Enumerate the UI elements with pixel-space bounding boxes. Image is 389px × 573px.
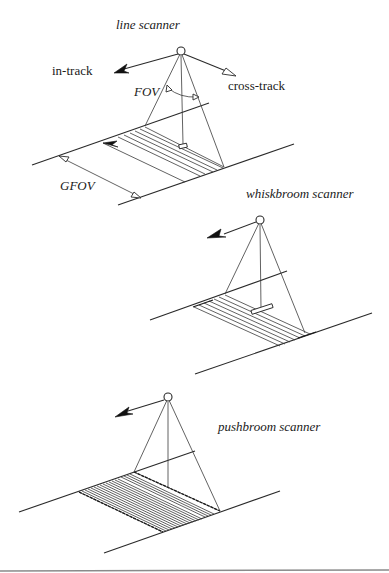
ground-edge-upper xyxy=(150,271,287,320)
in-track-label: in-track xyxy=(52,63,93,78)
fov-arc-arrowhead-left-icon xyxy=(166,85,172,92)
pushbroom-scanner-title: pushbroom scanner xyxy=(217,419,321,434)
fov-cone-right xyxy=(168,398,220,511)
direction-arrowhead-icon xyxy=(115,407,133,417)
ground-edge-lower xyxy=(104,491,280,553)
whiskbroom-scanner-title: whiskbroom scanner xyxy=(246,186,354,201)
scan-lines xyxy=(103,127,224,182)
line-scanner-panel: line scanner FOV in-track cr xyxy=(32,17,294,205)
page-bottom-border xyxy=(0,570,389,571)
cross-track-label: cross-track xyxy=(228,78,286,93)
fov-cone-right xyxy=(181,52,224,167)
direction-arrow-shaft xyxy=(128,400,164,411)
gfov-label: GFOV xyxy=(60,178,97,193)
scanner-diagram: line scanner FOV in-track cr xyxy=(0,0,389,573)
fov-cone-left xyxy=(134,398,168,472)
satellite-icon xyxy=(164,393,172,401)
nadir-line xyxy=(260,225,261,309)
fov-cone-right xyxy=(260,221,305,333)
cross-track-arrow-shaft xyxy=(184,54,226,71)
ifov-footprint xyxy=(251,304,273,315)
satellite-icon xyxy=(177,47,185,55)
pushbroom-scanner-panel: pushbroom scanner xyxy=(19,393,321,553)
fov-arc-arrowhead-right-icon xyxy=(193,94,199,100)
in-track-arrow-shaft xyxy=(124,54,178,69)
cross-track-arrowhead-icon xyxy=(222,68,236,76)
whiskbroom-scanner-panel: whiskbroom scanner xyxy=(150,186,372,374)
scan-lines xyxy=(79,472,220,532)
nadir-line xyxy=(181,56,183,144)
fov-label: FOV xyxy=(133,84,161,99)
satellite-icon xyxy=(256,216,264,224)
line-scanner-title: line scanner xyxy=(116,17,181,32)
direction-arrow-shaft xyxy=(224,222,256,234)
direction-arrowhead-icon xyxy=(207,229,226,238)
